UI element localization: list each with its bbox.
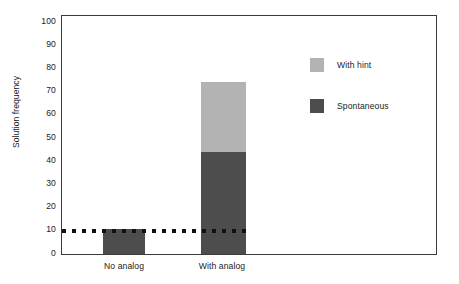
y-tick-label-10: 10 — [30, 225, 56, 234]
legend-swatch-spontaneous-icon — [310, 99, 324, 113]
legend-swatch-with-hint-icon — [310, 58, 324, 72]
chart-legend: With hint Spontaneous — [310, 58, 430, 136]
y-tick-label-50: 50 — [30, 133, 56, 142]
y-tick-label-30: 30 — [30, 179, 56, 188]
baseline-threshold-line — [62, 229, 246, 233]
legend-item-spontaneous: Spontaneous — [310, 99, 389, 113]
y-tick-label-80: 80 — [30, 63, 56, 72]
y-tick-label-90: 90 — [30, 40, 56, 49]
y-tick-label-60: 60 — [30, 109, 56, 118]
legend-item-with-hint: With hint — [310, 58, 371, 72]
y-tick-label-70: 70 — [30, 86, 56, 95]
plot-area: With hint Spontaneous — [61, 15, 437, 255]
bar-with-analog-with-hint — [201, 82, 246, 152]
bar-with-analog-spontaneous — [201, 152, 246, 254]
legend-label-spontaneous: Spontaneous — [337, 101, 389, 111]
y-axis-tick-labels: 100 90 80 70 60 50 40 30 20 10 0 — [26, 0, 56, 284]
y-tick-label-20: 20 — [30, 202, 56, 211]
y-tick-label-100: 100 — [30, 17, 56, 26]
x-tick-label-no-analog: No analog — [84, 261, 164, 271]
y-axis-title: Solution frequency — [11, 47, 21, 177]
chart-figure: Solution frequency 100 90 80 70 60 50 40… — [0, 0, 459, 284]
y-tick-label-0: 0 — [30, 249, 56, 258]
legend-label-with-hint: With hint — [337, 60, 371, 70]
x-tick-label-with-analog: With analog — [182, 261, 262, 271]
y-tick-label-40: 40 — [30, 156, 56, 165]
